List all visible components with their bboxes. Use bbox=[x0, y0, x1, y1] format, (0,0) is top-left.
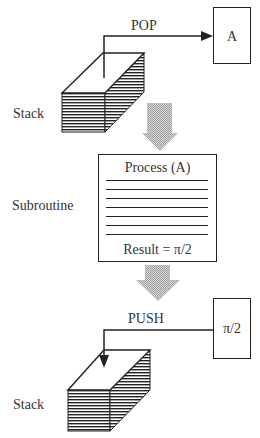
register-result-value: π/2 bbox=[214, 322, 250, 336]
subroutine-title: Process (A) bbox=[99, 161, 216, 175]
subroutine-label: Subroutine bbox=[12, 199, 73, 213]
flow-down-arrow-icon bbox=[136, 265, 180, 301]
code-line bbox=[106, 189, 208, 190]
code-line bbox=[106, 198, 208, 199]
flow-down-arrow-icon bbox=[142, 103, 178, 151]
pop-label: POP bbox=[131, 19, 157, 33]
register-a-box: A bbox=[213, 7, 251, 64]
register-a-value: A bbox=[214, 30, 250, 44]
code-line bbox=[106, 216, 208, 217]
subroutine-box: Process (A) Result = π/2 bbox=[98, 154, 217, 262]
code-line bbox=[106, 180, 208, 181]
top-stack-label: Stack bbox=[13, 107, 44, 121]
bottom-stack-icon bbox=[68, 350, 150, 431]
push-label: PUSH bbox=[128, 312, 164, 326]
subroutine-result: Result = π/2 bbox=[99, 243, 216, 257]
register-result-box: π/2 bbox=[213, 298, 251, 359]
top-stack-icon bbox=[62, 53, 144, 132]
code-line bbox=[106, 207, 208, 208]
stack-subroutine-diagram: Stack POP A Subroutine Process (A) Resul… bbox=[0, 0, 260, 438]
code-line bbox=[106, 225, 208, 226]
bottom-stack-label: Stack bbox=[13, 398, 44, 412]
code-line bbox=[106, 234, 208, 235]
